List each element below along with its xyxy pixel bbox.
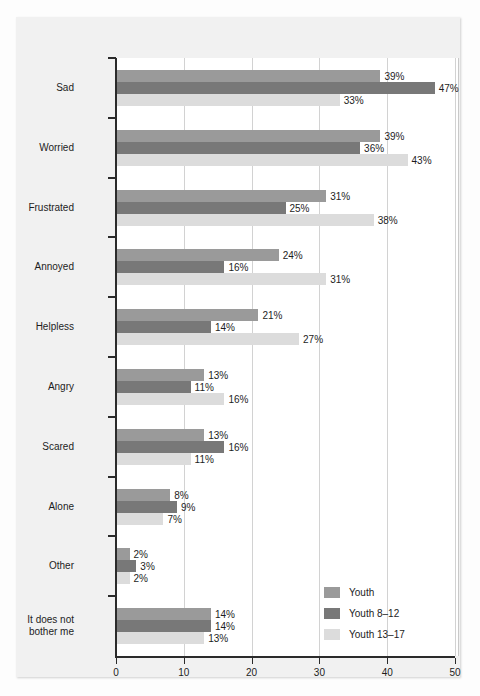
legend-label: Youth 8–12: [349, 608, 399, 619]
x-tick-label-0: 0: [113, 667, 119, 678]
chart-legend: YouthYouth 8–12Youth 13–17: [324, 583, 405, 646]
y-tick-9: [108, 595, 116, 597]
gridline-50: [455, 58, 456, 656]
bar: [116, 154, 408, 166]
bar: [116, 333, 299, 345]
legend-item: Youth: [324, 583, 405, 602]
bar: [116, 441, 224, 453]
y-tick-1: [108, 117, 116, 119]
bar: [116, 429, 204, 441]
bar-value-label: 3%: [140, 561, 154, 573]
y-tick-0: [108, 57, 116, 59]
bar: [116, 513, 163, 525]
bar-value-label: 16%: [228, 442, 248, 454]
bar-value-label: 14%: [215, 621, 235, 633]
legend-swatch-icon: [324, 587, 340, 598]
chart-figure: 39%47%33%39%36%43%31%25%38%24%16%31%21%1…: [0, 0, 480, 696]
gridline-40: [387, 58, 388, 656]
bar-value-label: 21%: [262, 310, 282, 322]
x-axis-line: [116, 656, 455, 658]
x-tick-40: [387, 658, 388, 664]
y-tick-7: [108, 476, 116, 478]
category-label: Worried: [39, 142, 74, 154]
x-tick-label-40: 40: [382, 667, 393, 678]
bar: [116, 453, 191, 465]
x-tick-label-10: 10: [178, 667, 189, 678]
bar-value-label: 31%: [330, 191, 350, 203]
bar: [116, 249, 279, 261]
y-tick-8: [108, 535, 116, 537]
bar: [116, 94, 340, 106]
category-label: Annoyed: [35, 261, 74, 273]
bar: [116, 501, 177, 513]
x-tick-30: [319, 658, 320, 664]
bar-value-label: 38%: [378, 215, 398, 227]
legend-swatch-icon: [324, 629, 340, 640]
legend-swatch-icon: [324, 608, 340, 619]
y-tick-6: [108, 416, 116, 418]
x-tick-10: [184, 658, 185, 664]
bar: [116, 608, 211, 620]
bar: [116, 548, 130, 560]
category-label: Helpless: [36, 321, 74, 333]
bar: [116, 309, 258, 321]
legend-label: Youth 13–17: [349, 629, 405, 640]
category-label: Sad: [56, 82, 74, 94]
bar-value-label: 13%: [208, 633, 228, 645]
bar-value-label: 33%: [344, 95, 364, 107]
bar: [116, 202, 286, 214]
bar: [116, 369, 204, 381]
legend-label: Youth: [349, 587, 374, 598]
bar-value-label: 43%: [412, 155, 432, 167]
bar-value-label: 31%: [330, 274, 350, 286]
legend-item: Youth 8–12: [324, 604, 405, 623]
x-tick-20: [252, 658, 253, 664]
bar-value-label: 14%: [215, 609, 235, 621]
y-tick-2: [108, 177, 116, 179]
bar: [116, 489, 170, 501]
category-label: Scared: [42, 441, 74, 453]
bar: [116, 214, 374, 226]
y-tick-4: [108, 296, 116, 298]
bar: [116, 560, 136, 572]
category-label: Frustrated: [28, 202, 74, 214]
bar: [116, 393, 224, 405]
bar-value-label: 39%: [384, 131, 404, 143]
chart-panel: 39%47%33%39%36%43%31%25%38%24%16%31%21%1…: [16, 17, 460, 677]
x-tick-label-50: 50: [449, 667, 460, 678]
bar: [116, 130, 380, 142]
bar: [116, 261, 224, 273]
bar: [116, 381, 191, 393]
bar-value-label: 9%: [181, 502, 195, 514]
x-tick-50: [455, 658, 456, 664]
x-tick-label-30: 30: [314, 667, 325, 678]
bar: [116, 321, 211, 333]
bar-value-label: 16%: [228, 394, 248, 406]
legend-item: Youth 13–17: [324, 625, 405, 644]
bar-value-label: 11%: [195, 454, 214, 466]
bar-value-label: 24%: [283, 250, 303, 262]
bar: [116, 70, 380, 82]
category-label: Other: [49, 560, 74, 572]
y-axis-line: [115, 58, 117, 658]
category-label: Angry: [48, 381, 74, 393]
bar: [116, 632, 204, 644]
bar-value-label: 2%: [134, 573, 148, 585]
y-tick-5: [108, 356, 116, 358]
category-label: It does not bother me: [27, 614, 74, 638]
bar: [116, 572, 130, 584]
bar: [116, 620, 211, 632]
bar: [116, 82, 435, 94]
y-tick-3: [108, 236, 116, 238]
bar: [116, 142, 360, 154]
bar-value-label: 27%: [303, 334, 323, 346]
category-label: Alone: [48, 501, 74, 513]
bar: [116, 190, 326, 202]
bar: [116, 273, 326, 285]
bar-value-label: 7%: [167, 514, 181, 526]
bar-value-label: 47%: [439, 83, 459, 95]
bar-value-label: 13%: [208, 370, 228, 382]
x-tick-label-20: 20: [246, 667, 257, 678]
x-tick-0: [116, 658, 117, 664]
